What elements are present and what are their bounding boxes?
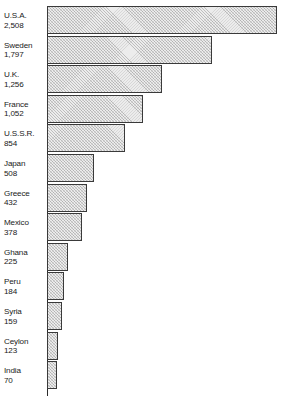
bar-value-label: 378 [4, 228, 46, 238]
bar-value-label: 508 [4, 169, 46, 179]
bar-label: Greece432 [4, 189, 46, 208]
bar-row: France1,052 [0, 95, 285, 125]
bar-row: Mexico378 [0, 213, 285, 243]
bar-rect [47, 6, 277, 34]
bar-value-label: 159 [4, 317, 46, 327]
bar-category-name: Mexico [4, 218, 46, 228]
bar-category-name: U.S.A. [4, 11, 46, 21]
bar-label: Syria159 [4, 307, 46, 326]
bar-value-label: 1,052 [4, 109, 46, 119]
bar-rect [47, 184, 87, 212]
bar-value-label: 854 [4, 139, 46, 149]
bar-value-label: 184 [4, 287, 46, 297]
bar-rect [47, 65, 162, 93]
bar-category-name: U.K. [4, 70, 46, 80]
bar-category-name: France [4, 100, 46, 110]
bar-label: U.S.A.2,508 [4, 11, 46, 30]
bar-category-name: Sweden [4, 41, 46, 51]
bar-label: Peru184 [4, 277, 46, 296]
bar-label: India70 [4, 366, 46, 385]
bar-rect [47, 95, 143, 123]
bar-category-name: India [4, 366, 46, 376]
bar-row: U.S.S.R.854 [0, 124, 285, 154]
bar-category-name: Peru [4, 277, 46, 287]
bar-chart: U.S.A.2,508Sweden1,797U.K.1,256France1,0… [0, 0, 285, 396]
bar-label: Sweden1,797 [4, 41, 46, 60]
bar-rect [47, 272, 64, 300]
bar-rect [47, 332, 58, 360]
bar-row: India70 [0, 361, 285, 391]
bar-row: Syria159 [0, 302, 285, 332]
bar-label: U.K.1,256 [4, 70, 46, 89]
bar-category-name: Ghana [4, 248, 46, 258]
bar-row: Ceylon123 [0, 332, 285, 362]
bar-rect [47, 124, 125, 152]
bar-label: Ceylon123 [4, 337, 46, 356]
bar-row: Greece432 [0, 184, 285, 214]
bar-rect [47, 361, 57, 389]
bar-value-label: 2,508 [4, 21, 46, 31]
bar-rect [47, 154, 94, 182]
bar-value-label: 432 [4, 198, 46, 208]
bar-row: Peru184 [0, 272, 285, 302]
bar-category-name: Syria [4, 307, 46, 317]
bar-value-label: 1,797 [4, 50, 46, 60]
bar-row: Ghana225 [0, 243, 285, 273]
bar-label: Japan508 [4, 159, 46, 178]
bar-row: Sweden1,797 [0, 36, 285, 66]
bar-rect [47, 36, 212, 64]
bar-label: Ghana225 [4, 248, 46, 267]
bar-label: Mexico378 [4, 218, 46, 237]
bar-value-label: 1,256 [4, 80, 46, 90]
bar-rect [47, 213, 82, 241]
bar-category-name: Greece [4, 189, 46, 199]
bar-category-name: Ceylon [4, 337, 46, 347]
bar-row: U.S.A.2,508 [0, 6, 285, 36]
bar-value-label: 123 [4, 346, 46, 356]
bar-category-name: U.S.S.R. [4, 129, 46, 139]
bar-label: France1,052 [4, 100, 46, 119]
bar-category-name: Japan [4, 159, 46, 169]
bar-rect [47, 243, 68, 271]
bar-label: U.S.S.R.854 [4, 129, 46, 148]
bar-row: Japan508 [0, 154, 285, 184]
bar-rect [47, 302, 62, 330]
bar-row: U.K.1,256 [0, 65, 285, 95]
bar-value-label: 70 [4, 376, 46, 386]
bar-value-label: 225 [4, 257, 46, 267]
